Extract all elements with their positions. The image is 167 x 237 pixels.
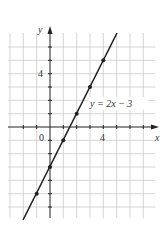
grid: [8, 33, 155, 218]
point: [101, 58, 105, 62]
x-axis-label: x: [154, 132, 160, 143]
axes: [8, 26, 159, 218]
y-tick-label-4: 4: [38, 68, 43, 79]
point: [48, 165, 52, 169]
point: [75, 112, 79, 116]
equation-label: y = 2x − 3: [89, 98, 132, 109]
point: [61, 138, 65, 142]
y-axis-label: y: [37, 24, 43, 35]
point: [88, 85, 92, 89]
y-axis-arrow-icon: [48, 26, 53, 34]
graph: y = 2x − 3 y x 0 4 4: [0, 0, 167, 237]
x-tick-label-4: 4: [100, 132, 105, 143]
origin-label: 0: [39, 132, 44, 143]
point: [35, 192, 39, 196]
x-axis-arrow-icon: [151, 125, 159, 130]
